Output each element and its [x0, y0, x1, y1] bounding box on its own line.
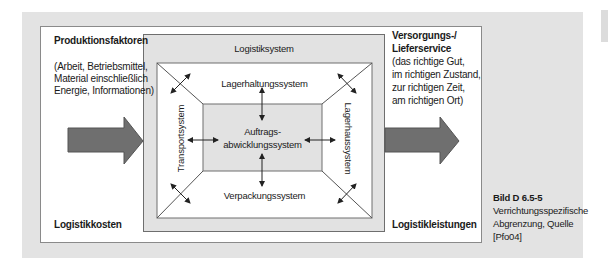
auftrags-label-1: Auftrags-	[203, 126, 322, 137]
output-arrow-icon	[385, 117, 459, 164]
versorgung-line-4: am richtigen Ort)	[392, 95, 463, 107]
produktionsfaktoren-line-2: Material einschließlich	[54, 73, 148, 85]
input-arrow-icon	[68, 117, 143, 164]
verpackungssystem-label: Verpackungssystem	[157, 190, 372, 201]
transportsystem-label: Transportsystem	[175, 89, 186, 189]
versorgung-title-2: Lieferservice	[392, 43, 451, 55]
lagerhaussystem-label: Lagerhaussystem	[343, 89, 354, 189]
lagerhaltungssystem-label: Lagerhaltungssystem	[157, 78, 372, 89]
logistikkosten-label: Logistikkosten	[54, 219, 122, 231]
caption-label: Bild D 6.5-5	[493, 192, 542, 205]
caption-line-3: [Pfo04]	[493, 231, 522, 244]
produktionsfaktoren-title: Produktionsfaktoren	[54, 35, 148, 47]
logistikleistungen-label: Logistikleistungen	[392, 219, 477, 231]
logistiksystem-title: Logistiksystem	[143, 43, 385, 54]
versorgung-line-1: (das richtige Gut,	[392, 56, 465, 68]
caption-line-2: Abgrenzung, Quelle	[493, 218, 573, 231]
versorgung-line-2: im richtigen Zustand,	[392, 69, 481, 81]
produktionsfaktoren-line-3: Energie, Informationen)	[54, 85, 154, 97]
produktionsfaktoren-line-1: (Arbeit, Betriebsmittel,	[54, 61, 148, 73]
versorgung-line-3: zur richtigen Zeit,	[392, 82, 465, 94]
versorgung-title-1: Versorgungs-/	[392, 30, 457, 42]
caption-line-1: Verrichtungsspezifische	[493, 205, 588, 218]
auftrags-label-2: abwicklungssystem	[203, 139, 322, 150]
